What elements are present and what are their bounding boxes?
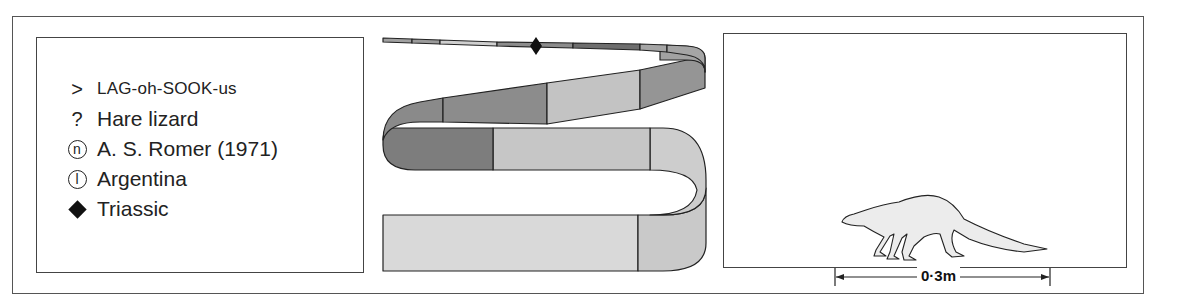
scale-bar: 0·3m (834, 268, 1052, 286)
geologic-time-ribbon (375, 30, 715, 280)
location-row: l Argentina (65, 164, 278, 194)
period-row: Triassic (65, 194, 278, 224)
period-marker-diamond-icon (530, 37, 542, 55)
lagosuchus-silhouette (724, 34, 1128, 269)
pronunciation-row: > LAG-oh-SOOK-us (65, 74, 278, 104)
meaning-text: Hare lizard (97, 107, 199, 131)
question-icon: ? (65, 108, 89, 131)
info-panel: > LAG-oh-SOOK-us ? Hare lizard n A. S. R… (36, 37, 364, 273)
info-list: > LAG-oh-SOOK-us ? Hare lizard n A. S. R… (65, 74, 278, 224)
location-text: Argentina (97, 167, 187, 191)
period-text: Triassic (97, 197, 169, 221)
location-icon: l (65, 170, 89, 189)
named-by-icon: n (65, 140, 89, 159)
named-by-text: A. S. Romer (1971) (97, 137, 278, 161)
pronunciation-text: LAG-oh-SOOK-us (97, 79, 237, 99)
meaning-row: ? Hare lizard (65, 104, 278, 134)
named-by-row: n A. S. Romer (1971) (65, 134, 278, 164)
diamond-icon (65, 203, 89, 216)
scale-label: 0·3m (917, 267, 960, 284)
size-comparison-panel (723, 33, 1127, 268)
pronunciation-icon: > (65, 78, 89, 101)
